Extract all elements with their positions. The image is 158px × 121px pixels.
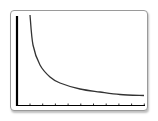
plotted-curve [30,15,144,96]
graph-plot [0,0,158,121]
